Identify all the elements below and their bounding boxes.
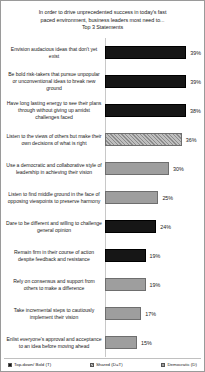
bar-zone: 24% xyxy=(105,212,201,241)
bar-segment[interactable] xyxy=(105,191,158,204)
category-label: Rely on consensus and support from other… xyxy=(6,278,105,292)
category-label: Be bold risk-takers that pursue unpopula… xyxy=(6,71,105,92)
legend-swatch-icon xyxy=(90,363,94,367)
category-label: Enlist everyone's approval and acceptanc… xyxy=(6,336,105,350)
bar-chart-container: In order to drive unprecedented success … xyxy=(0,0,205,372)
legend-label: Democratic (D) xyxy=(167,362,197,367)
legend-item-topdown[interactable]: Top-down/ Bold (T) xyxy=(8,362,51,367)
bar-zone: 25% xyxy=(105,183,201,212)
legend-item-democratic[interactable]: Democratic (D) xyxy=(161,362,197,367)
chart-row: Have long lasting energy to see their pl… xyxy=(6,96,201,125)
bar-segment[interactable] xyxy=(105,46,186,59)
bar-value-label: 39% xyxy=(190,79,201,85)
legend-item-shared[interactable]: Shared (D=T) xyxy=(90,362,123,367)
category-label: Dare to be different and willing to chal… xyxy=(6,220,105,234)
chart-row: Remain firm in their course of action de… xyxy=(6,241,201,270)
category-label: Envision audacious ideas that don't yet … xyxy=(6,46,105,60)
category-label: Remain firm in their course of action de… xyxy=(6,249,105,263)
bar-value-label: 17% xyxy=(145,311,156,317)
bar-segment[interactable] xyxy=(105,278,146,291)
bar-value-label: 19% xyxy=(150,282,161,288)
bar-zone: 15% xyxy=(105,328,201,357)
bar-zone: 36% xyxy=(105,125,201,154)
bar-segment[interactable] xyxy=(105,162,169,175)
chart-row: Listen to the views of others but make t… xyxy=(6,125,201,154)
chart-row: Use a democratic and collaborative style… xyxy=(6,154,201,183)
legend-swatch-icon xyxy=(161,363,165,367)
chart-row: Listen to find middle ground in the face… xyxy=(6,183,201,212)
bar-value-label: 30% xyxy=(173,166,184,172)
bar-zone: 39% xyxy=(105,67,201,96)
legend-label: Top-down/ Bold (T) xyxy=(14,362,51,367)
category-label: Have long lasting energy to see their pl… xyxy=(6,100,105,121)
bar-zone: 30% xyxy=(105,154,201,183)
chart-row: Be bold risk-takers that pursue unpopula… xyxy=(6,67,201,96)
bar-segment[interactable] xyxy=(105,220,156,233)
chart-legend: Top-down/ Bold (T) Shared (D=T) Democrat… xyxy=(4,358,201,369)
chart-title: In order to drive unprecedented success … xyxy=(4,4,201,38)
category-label: Listen to the views of others but make t… xyxy=(6,133,105,147)
chart-title-line-1: In order to drive unprecedented success … xyxy=(11,9,194,17)
bar-segment[interactable] xyxy=(105,75,186,88)
chart-row: Rely on consensus and support from other… xyxy=(6,270,201,299)
bar-value-label: 36% xyxy=(186,137,197,143)
bar-segment[interactable] xyxy=(105,307,141,320)
bar-value-label: 38% xyxy=(190,108,201,114)
bar-segment[interactable] xyxy=(105,133,182,146)
chart-title-line-2: paced environment, business leaders most… xyxy=(11,17,194,25)
bar-value-label: 19% xyxy=(150,253,161,259)
category-label: Take incremental steps to cautiously imp… xyxy=(6,307,105,321)
bar-zone: 19% xyxy=(105,241,201,270)
bar-value-label: 24% xyxy=(160,224,171,230)
bar-zone: 38% xyxy=(105,96,201,125)
bar-zone: 19% xyxy=(105,270,201,299)
chart-title-line-3: Top 3 Statements xyxy=(11,24,194,32)
chart-row: Envision audacious ideas that don't yet … xyxy=(6,38,201,67)
bar-zone: 39% xyxy=(105,38,201,67)
chart-row: Take incremental steps to cautiously imp… xyxy=(6,299,201,328)
plot-area: Envision audacious ideas that don't yet … xyxy=(4,38,201,357)
bar-value-label: 15% xyxy=(141,340,152,346)
chart-row: Enlist everyone's approval and acceptanc… xyxy=(6,328,201,357)
bar-zone: 17% xyxy=(105,299,201,328)
chart-row: Dare to be different and willing to chal… xyxy=(6,212,201,241)
bar-value-label: 39% xyxy=(190,50,201,56)
legend-swatch-icon xyxy=(8,363,12,367)
category-label: Listen to find middle ground in the face… xyxy=(6,191,105,205)
bar-segment[interactable] xyxy=(105,104,186,117)
category-label: Use a democratic and collaborative style… xyxy=(6,162,105,176)
bar-segment[interactable] xyxy=(105,336,137,349)
bar-segment[interactable] xyxy=(105,249,146,262)
legend-label: Shared (D=T) xyxy=(96,362,123,367)
bar-value-label: 25% xyxy=(162,195,173,201)
